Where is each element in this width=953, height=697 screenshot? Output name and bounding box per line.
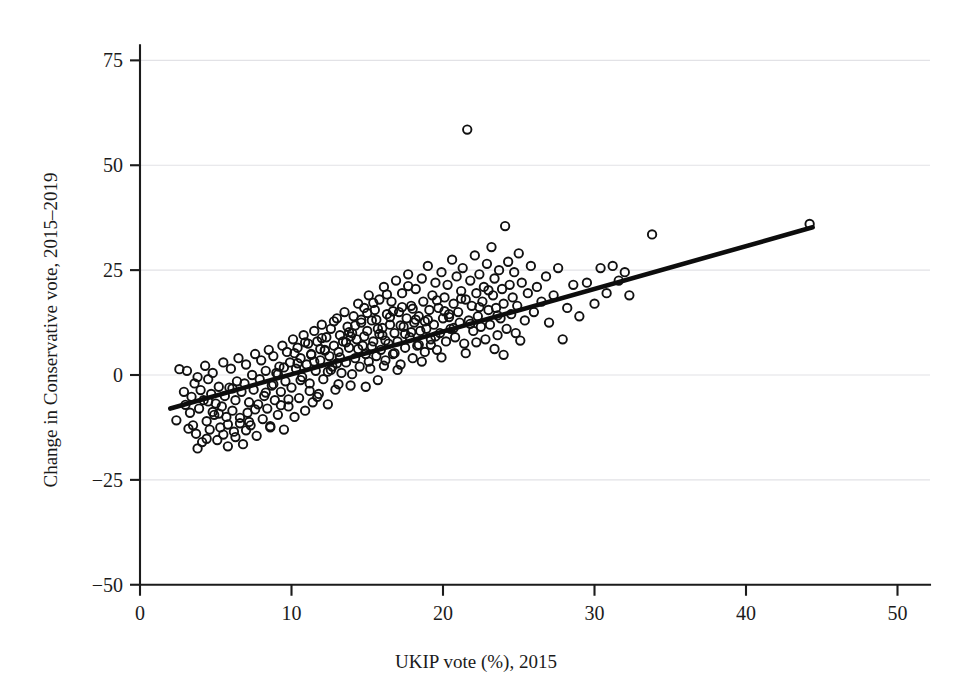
data-point (290, 413, 298, 421)
data-point (196, 386, 204, 394)
data-point (448, 255, 456, 263)
data-point (419, 297, 427, 305)
data-point (451, 333, 459, 341)
data-point (518, 279, 526, 287)
data-point (205, 425, 213, 433)
data-point (442, 337, 450, 345)
data-point (380, 362, 388, 370)
data-point (510, 268, 518, 276)
data-point (257, 356, 265, 364)
data-point (515, 249, 523, 257)
scatter-plot: −50−250255075 01020304050 UKIP vote (%),… (0, 0, 953, 697)
data-point (424, 262, 432, 270)
y-tick-label--50: −50 (92, 574, 123, 596)
data-point (545, 318, 553, 326)
data-point (287, 383, 295, 391)
data-point (502, 325, 510, 333)
data-point (437, 268, 445, 276)
data-point (346, 381, 354, 389)
data-point (245, 398, 253, 406)
x-tick-label-40: 40 (736, 602, 756, 624)
data-point (269, 352, 277, 360)
data-point (452, 272, 460, 280)
data-point (486, 320, 494, 328)
data-point (383, 290, 391, 298)
data-point (231, 396, 239, 404)
data-point (621, 268, 629, 276)
y-tick-label-75: 75 (103, 49, 123, 71)
data-point (227, 365, 235, 373)
x-tick-label-20: 20 (433, 602, 453, 624)
data-point (625, 291, 633, 299)
data-point (472, 289, 480, 297)
y-tick-label-50: 50 (103, 154, 123, 176)
data-point (499, 351, 507, 359)
data-point (475, 270, 483, 278)
data-point (337, 369, 345, 377)
data-point (527, 262, 535, 270)
data-point (310, 327, 318, 335)
data-point (504, 258, 512, 266)
data-point (493, 331, 501, 339)
x-axis-ticks-group: 01020304050 (135, 585, 908, 624)
data-point (516, 336, 524, 344)
y-tick-label-25: 25 (103, 259, 123, 281)
x-tick-label-30: 30 (585, 602, 605, 624)
data-point (487, 243, 495, 251)
data-point (224, 442, 232, 450)
data-point (404, 270, 412, 278)
data-point (583, 279, 591, 287)
data-point (274, 411, 282, 419)
data-point (219, 358, 227, 366)
y-tick-label-0: 0 (113, 364, 123, 386)
data-point (462, 349, 470, 357)
data-point (542, 272, 550, 280)
data-point (454, 308, 462, 316)
data-point (499, 299, 507, 307)
data-point (295, 394, 303, 402)
data-point (236, 414, 244, 422)
data-point (193, 444, 201, 452)
data-point (608, 262, 616, 270)
data-point (409, 354, 417, 362)
data-point (458, 264, 466, 272)
data-point (242, 360, 250, 368)
data-point (427, 341, 435, 349)
y-axis-title: Change in Conservative vote, 2015–2019 (40, 172, 61, 487)
data-point (590, 299, 598, 307)
data-point (425, 306, 433, 314)
data-point (437, 353, 445, 361)
data-point (602, 289, 610, 297)
data-point (228, 406, 236, 414)
data-point (231, 433, 239, 441)
data-point (201, 362, 209, 370)
data-point (508, 293, 516, 301)
data-point (259, 415, 267, 423)
data-point (280, 425, 288, 433)
data-point (209, 369, 217, 377)
data-point (277, 388, 285, 396)
data-point (234, 354, 242, 362)
data-point (362, 383, 370, 391)
axes-group (140, 45, 930, 584)
data-point (186, 409, 194, 417)
data-point (472, 338, 480, 346)
data-point (490, 345, 498, 353)
data-point (418, 357, 426, 365)
data-point (466, 276, 474, 284)
data-point (398, 289, 406, 297)
data-point (374, 376, 382, 384)
data-point (172, 416, 180, 424)
data-point (490, 274, 498, 282)
data-point (418, 274, 426, 282)
data-point (443, 281, 451, 289)
data-point (569, 281, 577, 289)
data-point (521, 316, 529, 324)
data-point (533, 283, 541, 291)
data-point (263, 404, 271, 412)
data-point (318, 320, 326, 328)
data-point (501, 222, 509, 230)
x-axis-title: UKIP vote (%), 2015 (395, 651, 557, 673)
data-point (463, 125, 471, 133)
data-point (524, 289, 532, 297)
